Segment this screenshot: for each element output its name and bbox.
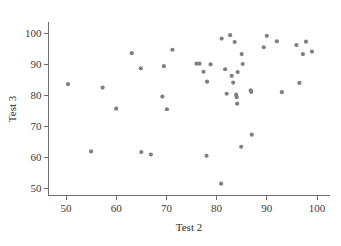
x-axis-tick-label: 80 — [211, 202, 223, 214]
data-point — [149, 152, 153, 156]
data-point — [241, 62, 245, 66]
x-axis: 5060708090100 — [48, 196, 329, 214]
data-points-layer — [66, 33, 314, 186]
data-point — [294, 43, 298, 47]
data-point — [225, 92, 229, 96]
data-point — [220, 36, 224, 40]
data-point — [301, 52, 305, 56]
data-point — [275, 39, 279, 43]
x-axis-tick-label: 50 — [61, 202, 73, 214]
data-point — [265, 34, 269, 38]
data-point — [228, 33, 232, 37]
y-axis-ticks: 5060708090100 — [25, 27, 49, 194]
data-point — [230, 74, 234, 78]
data-point — [297, 81, 301, 85]
plot-canvas: 5060708090100 5060708090100 Test 2 Test … — [0, 0, 341, 246]
x-axis-tick-label: 100 — [309, 202, 326, 214]
x-axis-title: Test 2 — [176, 221, 202, 233]
y-axis: 5060708090100 — [25, 22, 49, 196]
data-point — [205, 80, 209, 84]
y-axis-tick-label: 90 — [30, 58, 42, 70]
data-point — [89, 149, 93, 153]
data-point — [101, 85, 105, 89]
data-point — [236, 70, 240, 74]
data-point — [139, 150, 143, 154]
y-axis-tick-label: 70 — [30, 120, 42, 132]
scatter-plot-figure: 5060708090100 5060708090100 Test 2 Test … — [0, 0, 341, 246]
data-point — [235, 95, 239, 99]
data-point — [304, 40, 308, 44]
data-point — [170, 48, 174, 52]
data-point — [197, 62, 201, 66]
data-point — [231, 81, 235, 85]
data-point — [201, 70, 205, 74]
x-axis-tick-label: 60 — [111, 202, 123, 214]
data-point — [235, 102, 239, 106]
data-point — [160, 94, 164, 98]
data-point — [139, 66, 143, 70]
data-point — [310, 50, 314, 54]
data-point — [219, 182, 223, 186]
data-point — [66, 82, 70, 86]
y-axis-tick-label: 100 — [25, 27, 42, 39]
y-axis-tick-label: 50 — [30, 182, 42, 194]
y-axis-tick-label: 60 — [30, 151, 42, 163]
data-point — [239, 145, 243, 149]
data-point — [208, 62, 212, 66]
x-axis-tick-label: 70 — [161, 202, 173, 214]
data-point — [223, 67, 227, 71]
data-point — [162, 64, 166, 68]
data-point — [233, 40, 237, 44]
data-point — [204, 154, 208, 158]
y-axis-title: Test 3 — [6, 95, 18, 122]
data-point — [165, 107, 169, 111]
data-point — [114, 107, 118, 111]
data-point — [262, 45, 266, 49]
data-point — [250, 133, 254, 137]
data-point — [280, 90, 284, 94]
data-point — [130, 51, 134, 55]
data-point — [240, 52, 244, 56]
y-axis-tick-label: 80 — [30, 89, 42, 101]
data-point — [249, 90, 253, 94]
x-axis-tick-label: 90 — [261, 202, 273, 214]
x-axis-ticks: 5060708090100 — [61, 196, 326, 214]
